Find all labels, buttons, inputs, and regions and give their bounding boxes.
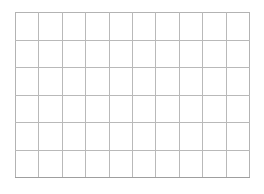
grid-cell[interactable] xyxy=(86,95,109,123)
grid-body xyxy=(16,13,250,178)
grid-cell[interactable] xyxy=(203,13,226,41)
grid-cell[interactable] xyxy=(226,40,249,68)
grid-cell[interactable] xyxy=(16,123,39,151)
blank-grid-table[interactable] xyxy=(15,12,250,178)
grid-cell[interactable] xyxy=(156,150,179,178)
grid-cell[interactable] xyxy=(109,123,132,151)
grid-cell[interactable] xyxy=(86,150,109,178)
grid-cell[interactable] xyxy=(179,68,202,96)
grid-cell[interactable] xyxy=(86,13,109,41)
grid-cell[interactable] xyxy=(179,13,202,41)
grid-cell[interactable] xyxy=(39,150,62,178)
grid-cell[interactable] xyxy=(179,123,202,151)
grid-cell[interactable] xyxy=(109,150,132,178)
grid-cell[interactable] xyxy=(39,13,62,41)
table-row xyxy=(16,68,250,96)
grid-cell[interactable] xyxy=(226,13,249,41)
grid-cell[interactable] xyxy=(62,123,85,151)
grid-cell[interactable] xyxy=(39,123,62,151)
grid-cell[interactable] xyxy=(86,123,109,151)
grid-cell[interactable] xyxy=(132,13,155,41)
grid-cell[interactable] xyxy=(86,40,109,68)
grid-cell[interactable] xyxy=(179,150,202,178)
grid-cell[interactable] xyxy=(39,40,62,68)
table-row xyxy=(16,95,250,123)
grid-cell[interactable] xyxy=(62,150,85,178)
table-row xyxy=(16,123,250,151)
grid-cell[interactable] xyxy=(16,95,39,123)
grid-cell[interactable] xyxy=(226,95,249,123)
grid-cell[interactable] xyxy=(132,123,155,151)
grid-cell[interactable] xyxy=(179,95,202,123)
grid-cell[interactable] xyxy=(109,95,132,123)
grid-cell[interactable] xyxy=(132,40,155,68)
grid-cell[interactable] xyxy=(109,68,132,96)
grid-cell[interactable] xyxy=(203,123,226,151)
grid-cell[interactable] xyxy=(203,95,226,123)
grid-cell[interactable] xyxy=(132,68,155,96)
grid-cell[interactable] xyxy=(16,40,39,68)
grid-cell[interactable] xyxy=(179,40,202,68)
table-row xyxy=(16,150,250,178)
table-row xyxy=(16,13,250,41)
grid-cell[interactable] xyxy=(203,150,226,178)
grid-cell[interactable] xyxy=(203,40,226,68)
grid-cell[interactable] xyxy=(156,95,179,123)
grid-cell[interactable] xyxy=(156,40,179,68)
grid-cell[interactable] xyxy=(16,68,39,96)
grid-cell[interactable] xyxy=(86,68,109,96)
grid-cell[interactable] xyxy=(62,68,85,96)
grid-cell[interactable] xyxy=(16,13,39,41)
grid-cell[interactable] xyxy=(39,68,62,96)
grid-cell[interactable] xyxy=(226,123,249,151)
grid-cell[interactable] xyxy=(39,95,62,123)
grid-cell[interactable] xyxy=(156,123,179,151)
grid-cell[interactable] xyxy=(62,40,85,68)
grid-cell[interactable] xyxy=(226,68,249,96)
grid-cell[interactable] xyxy=(156,13,179,41)
grid-cell[interactable] xyxy=(16,150,39,178)
grid-cell[interactable] xyxy=(156,68,179,96)
grid-cell[interactable] xyxy=(203,68,226,96)
grid-canvas xyxy=(0,0,264,194)
grid-cell[interactable] xyxy=(132,95,155,123)
grid-cell[interactable] xyxy=(226,150,249,178)
grid-cell[interactable] xyxy=(62,13,85,41)
grid-cell[interactable] xyxy=(132,150,155,178)
grid-cell[interactable] xyxy=(62,95,85,123)
table-row xyxy=(16,40,250,68)
grid-cell[interactable] xyxy=(109,13,132,41)
grid-cell[interactable] xyxy=(109,40,132,68)
